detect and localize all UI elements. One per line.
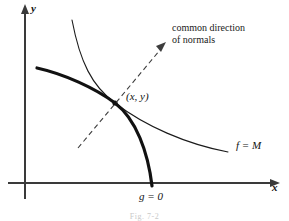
normals-annotation-line1: common direction: [172, 22, 245, 33]
x-axis-label: x: [272, 181, 278, 194]
figure-container: y x (x, y) f = M g = 0 common direction …: [0, 0, 289, 221]
normals-annotation-line2: of normals: [172, 34, 245, 46]
y-axis-label: y: [31, 2, 36, 15]
y-axis-arrowhead: [21, 4, 29, 14]
figure-caption: Fig. 7-2: [0, 212, 289, 221]
curve-g-constraint: [37, 68, 152, 186]
tangency-point-label: (x, y): [126, 90, 149, 103]
diagram-canvas: [0, 0, 289, 221]
normals-annotation: common direction of normals: [172, 22, 245, 45]
normal-direction-arrowhead: [156, 42, 166, 52]
curve-g-label: g = 0: [139, 190, 163, 203]
curve-f-label: f = M: [236, 139, 261, 152]
